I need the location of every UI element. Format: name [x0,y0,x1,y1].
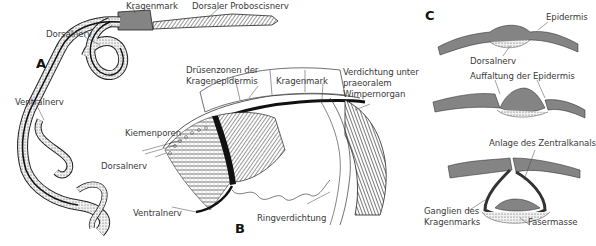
label-b-ventralnerv: Ventralnerv [133,208,182,218]
panel-label-c: C [425,8,435,23]
label-c-ganglien-2: Kragenmarks [424,217,480,227]
label-c-dorsalnerv: Dorsalnerv [470,56,516,66]
label-b-dorsalnerv: Dorsalnerv [101,161,147,171]
label-c-epidermis: Epidermis [546,12,588,22]
label-b-verdichtung-3: Wimpernorgan [343,89,405,99]
panel-c-sections-drawing [433,22,585,225]
panel-label-b: B [235,221,245,236]
label-a-kragenmark: Kragenmark [126,1,178,11]
label-c-anlage: Anlage des Zentralkanals [489,138,596,148]
label-b-verdichtung-2: praeoralem [343,78,392,88]
label-a-dorsalnerv: Dorsalnerv [46,29,92,39]
label-b-ringverdichtung: Ringverdichtung [257,213,326,223]
label-b-verdichtung-1: Verdichtung unter [343,67,419,77]
label-a-ventralnerv: Ventralnerv [15,97,64,107]
label-b-kiemenporen: Kiemenporen [125,128,181,138]
label-b-druesenzonen-1: Drüsenzonen der [186,65,258,75]
panel-label-a: A [36,56,46,71]
label-c-auffaltung: Auffaltung der Epidermis [470,71,575,81]
label-b-kragenmark: Kragenmark [276,76,328,86]
label-a-dorsaler-proboscisnerv: Dorsaler Proboscisnerv [192,1,289,11]
label-c-fasermasse: Fasermasse [528,217,577,227]
label-b-druesenzonen-2: Kragenepidermis [186,76,258,86]
label-c-ganglien-1: Ganglien des [424,206,479,216]
